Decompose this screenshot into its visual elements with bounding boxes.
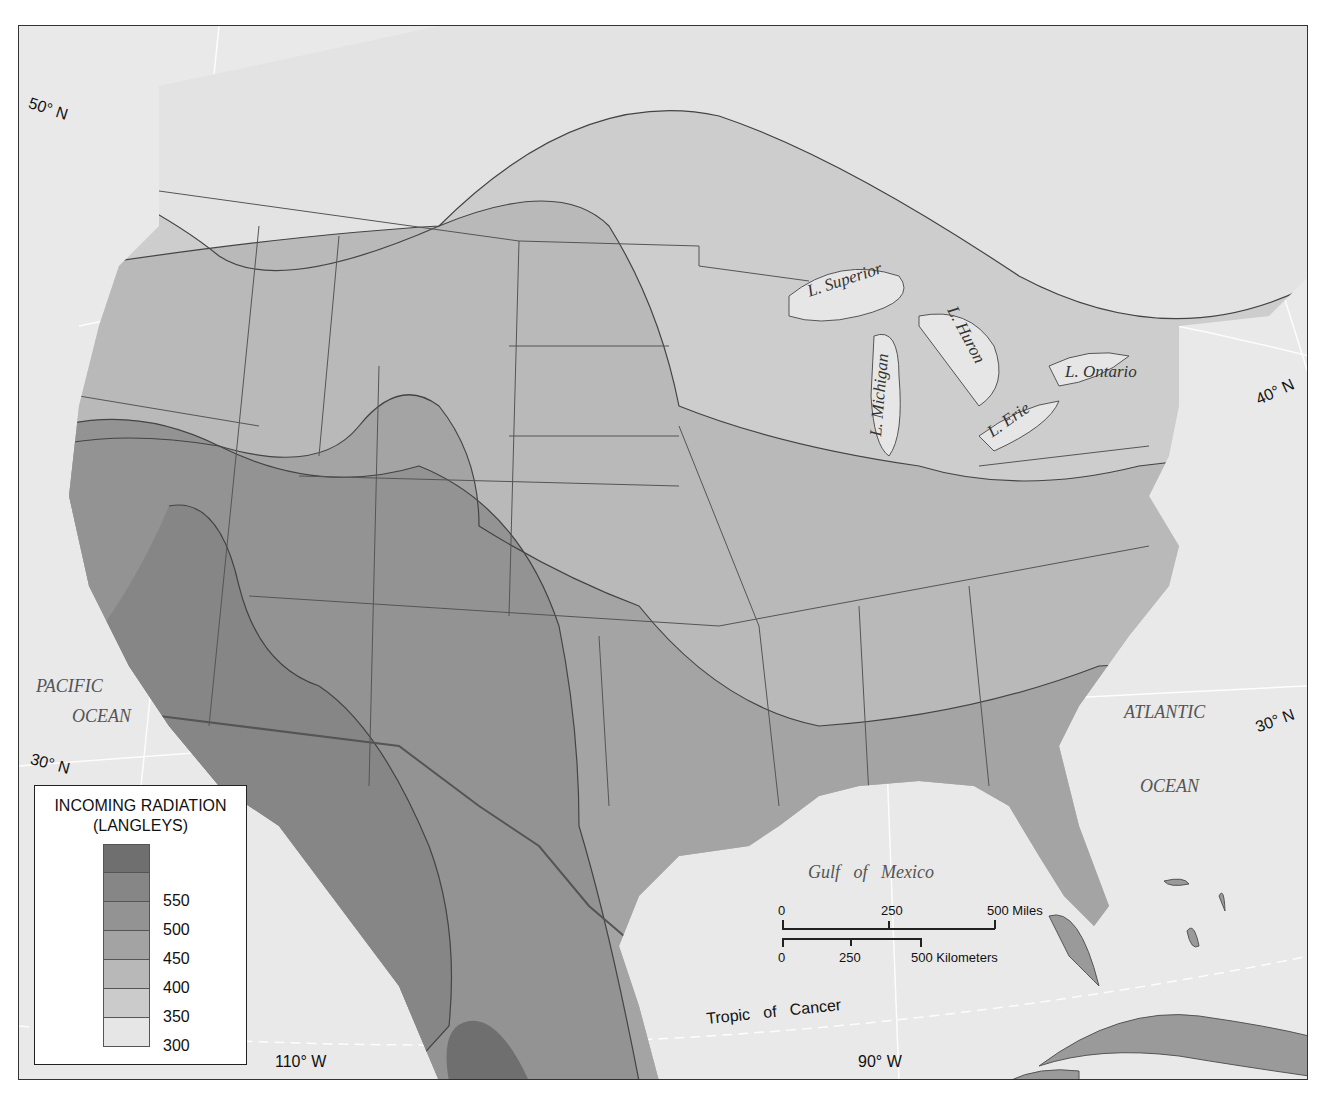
legend: INCOMING RADIATION (LANGLEYS) 5505004504… bbox=[34, 785, 247, 1065]
scale-tick bbox=[920, 938, 922, 947]
legend-swatch bbox=[103, 1018, 150, 1047]
scale-miles-250: 250 bbox=[881, 903, 903, 918]
scale-km-0: 0 bbox=[778, 950, 785, 965]
scale-tick bbox=[850, 938, 852, 946]
scale-bar: 0 250 500 Miles 0 250 500 Kilometers bbox=[775, 900, 1075, 970]
lon-90w-label: 90° W bbox=[858, 1053, 902, 1071]
legend-title: INCOMING RADIATION (LANGLEYS) bbox=[35, 796, 246, 836]
legend-label: 450 bbox=[163, 950, 190, 968]
legend-label: 300 bbox=[163, 1037, 190, 1055]
scale-tick bbox=[994, 920, 996, 929]
atlantic-label-line2: OCEAN bbox=[1140, 776, 1199, 797]
legend-swatch bbox=[103, 931, 150, 960]
lake-ontario-label: L. Ontario bbox=[1065, 362, 1137, 382]
pacific-label-line1: PACIFIC bbox=[36, 676, 103, 697]
legend-label: 400 bbox=[163, 979, 190, 997]
pacific-label-line2: OCEAN bbox=[72, 706, 131, 727]
legend-label: 350 bbox=[163, 1008, 190, 1026]
scale-tick bbox=[888, 921, 890, 929]
gulf-of-mexico-label: Gulf of Mexico bbox=[808, 862, 934, 883]
legend-swatch bbox=[103, 902, 150, 931]
scale-km-line bbox=[782, 938, 921, 940]
legend-swatch bbox=[103, 844, 150, 873]
legend-title-line1: INCOMING RADIATION bbox=[35, 796, 246, 816]
scale-miles-0: 0 bbox=[778, 903, 785, 918]
legend-swatch bbox=[103, 960, 150, 989]
scale-km-250: 250 bbox=[839, 950, 861, 965]
scale-tick bbox=[782, 938, 784, 947]
scale-km-500: 500 Kilometers bbox=[911, 950, 998, 965]
scale-tick bbox=[782, 920, 784, 929]
legend-swatch bbox=[103, 989, 150, 1018]
lon-110w-label: 110° W bbox=[275, 1053, 326, 1071]
legend-swatch bbox=[103, 873, 150, 902]
atlantic-label-line1: ATLANTIC bbox=[1124, 702, 1205, 723]
legend-label: 550 bbox=[163, 892, 190, 910]
scale-miles-500: 500 Miles bbox=[987, 903, 1043, 918]
legend-label: 500 bbox=[163, 921, 190, 939]
legend-title-line2: (LANGLEYS) bbox=[35, 816, 246, 836]
